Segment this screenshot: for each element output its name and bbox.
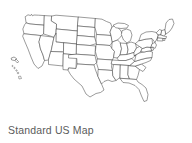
state-minnesota[interactable] [95, 19, 112, 36]
state-colorado[interactable] [64, 43, 77, 55]
hawaii-island-1 [12, 65, 13, 66]
state-rhode-island[interactable] [163, 39, 165, 41]
state-missouri[interactable] [96, 45, 115, 61]
state-nebraska[interactable] [77, 36, 97, 46]
state-michigan-upper[interactable] [114, 23, 129, 29]
state-iowa[interactable] [96, 35, 113, 46]
state-oregon[interactable] [23, 23, 44, 36]
us-map[interactable] [0, 2, 192, 118]
alaska-inset[interactable] [12, 57, 19, 63]
hawaii-inset[interactable] [12, 65, 22, 79]
state-michigan-lower[interactable] [122, 29, 133, 43]
state-wyoming[interactable] [56, 29, 78, 44]
figure-container: Standard US Map [0, 0, 192, 143]
state-alaska [12, 57, 17, 61]
hawaii-island-2 [14, 67, 15, 68]
hawaii-big-island [19, 76, 22, 79]
state-florida[interactable] [120, 79, 148, 102]
state-outlines [23, 14, 174, 101]
figure-caption: Standard US Map [8, 123, 188, 137]
us-map-svg [0, 2, 192, 118]
state-arkansas[interactable] [97, 59, 113, 71]
state-alaska-panhandle [16, 60, 19, 64]
state-arizona[interactable] [49, 52, 64, 67]
state-kansas[interactable] [77, 45, 96, 56]
hawaii-island-4 [17, 72, 19, 74]
state-north-dakota[interactable] [78, 17, 96, 28]
state-south-dakota[interactable] [78, 26, 96, 37]
hawaii-island-3 [16, 70, 17, 71]
state-maine[interactable] [165, 19, 174, 34]
state-connecticut[interactable] [158, 38, 163, 41]
